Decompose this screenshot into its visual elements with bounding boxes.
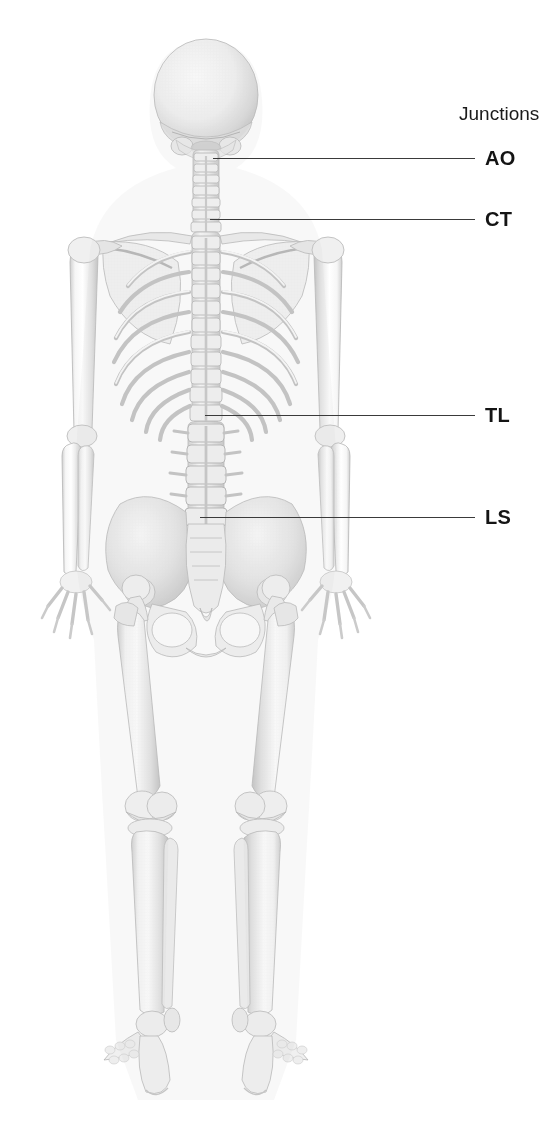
leader-line-ct: [210, 219, 475, 220]
junction-label-ao: AO: [485, 148, 515, 168]
junction-label-ct: CT: [485, 209, 512, 229]
junction-annotations: Junctions AO CT TL LS: [0, 0, 556, 1144]
legend-title: Junctions: [459, 104, 539, 123]
leader-line-ao: [213, 158, 475, 159]
skeleton-junctions-figure: Junctions AO CT TL LS: [0, 0, 556, 1144]
junction-label-tl: TL: [485, 405, 510, 425]
leader-line-ls: [200, 517, 475, 518]
leader-line-tl: [205, 415, 475, 416]
junction-label-ls: LS: [485, 507, 511, 527]
